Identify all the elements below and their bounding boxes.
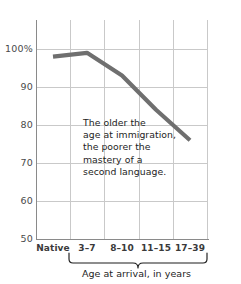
y-tick-label-100: 100% [0, 44, 33, 54]
gridline-y-100 [36, 49, 208, 50]
y-tick-label-70: 70 [0, 158, 33, 168]
y-tick-label-50: 50 [0, 234, 33, 244]
chart-annotation: The older the age at immigration, the po… [83, 117, 181, 178]
y-tick-label-60: 60 [0, 196, 33, 206]
x-axis-title-text: Age at arrival, in years [50, 268, 191, 279]
annotation-line-2: age at immigration, [83, 129, 181, 141]
line-chart: 100% 90 80 70 60 50 Native 3–7 8–10 11–1… [0, 0, 241, 284]
annotation-line-4: mastery of a [83, 154, 181, 166]
y-axis-tick-labels: 100% 90 80 70 60 50 [0, 0, 33, 284]
y-axis-line [36, 20, 37, 240]
gridline-x-native [70, 20, 71, 239]
y-tick-label-80: 80 [0, 120, 33, 130]
annotation-line-3: the poorer the [83, 141, 181, 153]
y-tick-label-90: 90 [0, 82, 33, 92]
x-axis-line [36, 239, 209, 240]
gridline-y-90 [36, 87, 208, 88]
gridline-y-60 [36, 201, 208, 202]
gridline-x-17-39 [207, 20, 208, 239]
x-axis-title: Age at arrival, in years [0, 268, 241, 279]
annotation-line-5: second language. [83, 166, 181, 178]
annotation-line-1: The older the [83, 117, 181, 129]
